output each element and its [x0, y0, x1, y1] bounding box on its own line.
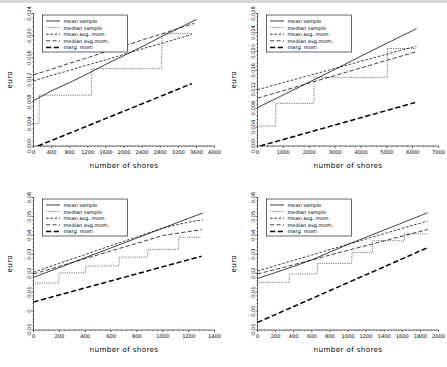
- x-tick-label: 1000: [341, 332, 354, 338]
- series-line: [257, 52, 416, 98]
- legend-label: marg. mom: [287, 44, 316, 51]
- x-tick-label: 3000: [328, 149, 341, 155]
- x-tick-label: 4000: [208, 149, 221, 155]
- legend-label: marg. mom: [287, 228, 316, 235]
- x-axis-title: number of shores: [90, 344, 159, 353]
- chart-panel-bottom-left: 0200400600800100012001400-0.0100.010.020…: [0, 184, 224, 367]
- series-line: [257, 49, 416, 127]
- x-tick-label: 600: [106, 332, 116, 338]
- legend-label: marg. mom: [64, 44, 93, 51]
- y-tick-label: 0.020: [26, 28, 32, 43]
- x-tick-label: 1600: [99, 149, 112, 155]
- x-tick-label: 1800: [413, 332, 426, 338]
- x-tick-label: 2400: [136, 149, 149, 155]
- x-tick-label: 4000: [354, 149, 367, 155]
- y-tick-label: 0.01: [26, 286, 32, 297]
- y-tick-label: -0.01: [26, 323, 32, 336]
- x-tick-label: 600: [306, 332, 316, 338]
- y-tick-label: 0.028: [250, 6, 256, 21]
- x-tick-label: 400: [80, 332, 90, 338]
- y-tick-label: 0.004: [26, 117, 32, 132]
- y-tick-label: 0.04: [250, 229, 256, 240]
- x-tick-label: 3600: [190, 149, 203, 155]
- y-tick-label: 0.03: [250, 248, 256, 259]
- x-tick-label: 1200: [359, 332, 372, 338]
- y-tick-label: 0.000: [250, 139, 256, 154]
- y-tick-label: 0: [26, 309, 32, 312]
- y-tick-label: 0.008: [250, 101, 256, 116]
- x-tick-label: 1400: [377, 332, 390, 338]
- series-line: [34, 237, 202, 283]
- series-line: [260, 102, 415, 146]
- x-tick-label: 0: [255, 332, 258, 338]
- y-tick-label: 0.004: [250, 120, 256, 135]
- x-tick-label: 400: [288, 332, 298, 338]
- y-tick-label: 0.024: [26, 6, 32, 21]
- y-tick-label: 0.000: [26, 139, 32, 154]
- x-tick-label: 1600: [395, 332, 408, 338]
- x-tick-label: 800: [325, 332, 335, 338]
- x-tick-label: 2000: [432, 332, 445, 338]
- x-tick-label: 2000: [302, 149, 315, 155]
- y-tick-label: 0.024: [250, 25, 256, 40]
- x-tick-label: 3200: [172, 149, 185, 155]
- series-line: [257, 247, 427, 322]
- y-axis-title: euro: [228, 71, 237, 89]
- y-axis-title: euro: [228, 254, 237, 272]
- x-tick-label: 5000: [380, 149, 393, 155]
- chart-panel-bottom-right: 0200400600800100012001400160018002000-0.…: [224, 184, 447, 367]
- figure-panel-grid: 0400800120016002000240028003200360040000…: [0, 0, 447, 367]
- series-line: [34, 229, 202, 273]
- y-axis-title: euro: [5, 254, 14, 272]
- x-tick-label: 1000: [276, 149, 289, 155]
- y-tick-label: 0.05: [250, 210, 256, 221]
- series-line: [257, 46, 416, 90]
- legend-label: marg. mom: [64, 228, 93, 235]
- y-tick-label: 0.05: [26, 210, 32, 221]
- y-tick-label: 0.06: [26, 191, 32, 202]
- y-tick-label: 0.01: [250, 286, 256, 297]
- x-tick-label: 2000: [118, 149, 131, 155]
- x-tick-label: 1000: [156, 332, 169, 338]
- y-axis-title: euro: [5, 71, 14, 89]
- x-tick-label: 7000: [432, 149, 445, 155]
- y-tick-label: 0.06: [250, 191, 256, 202]
- y-tick-label: 0.020: [250, 44, 256, 59]
- y-tick-label: 0.03: [26, 248, 32, 259]
- y-tick-label: 0.02: [250, 267, 256, 278]
- x-tick-label: 800: [65, 149, 75, 155]
- y-tick-label: 0.008: [26, 95, 32, 110]
- y-tick-label: 0.00: [250, 305, 256, 316]
- y-tick-label: 0.02: [26, 267, 32, 278]
- series-line: [38, 84, 192, 146]
- x-axis-title: number of shores: [313, 161, 382, 170]
- x-tick-label: 0: [32, 149, 35, 155]
- chart-panel-top-right: 010002000300040005000600070000.0000.0040…: [224, 0, 447, 184]
- y-tick-label: 0.016: [26, 50, 32, 65]
- x-tick-label: 200: [270, 332, 280, 338]
- y-tick-label: 0.012: [250, 82, 256, 97]
- y-tick-label: 0.04: [26, 229, 32, 240]
- y-tick-label: 0.016: [250, 63, 256, 78]
- y-tick-label: -0.01: [250, 323, 256, 336]
- x-axis-title: number of shores: [313, 344, 382, 353]
- x-tick-label: 200: [54, 332, 64, 338]
- x-tick-label: 6000: [406, 149, 419, 155]
- x-tick-label: 1400: [208, 332, 221, 338]
- x-tick-label: 800: [132, 332, 142, 338]
- x-tick-label: 400: [47, 149, 57, 155]
- x-tick-label: 2800: [154, 149, 167, 155]
- x-tick-label: 1200: [182, 332, 195, 338]
- y-tick-label: 0.012: [26, 72, 32, 87]
- x-tick-label: 0: [255, 149, 258, 155]
- chart-panel-top-left: 0400800120016002000240028003200360040000…: [0, 0, 224, 184]
- x-axis-title: number of shores: [90, 161, 159, 170]
- x-tick-label: 0: [32, 332, 35, 338]
- x-tick-label: 1200: [81, 149, 94, 155]
